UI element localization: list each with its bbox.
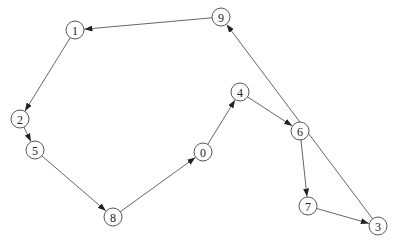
edge-8-to-0 bbox=[120, 158, 195, 212]
node-6: 6 bbox=[291, 122, 309, 140]
node-label: 4 bbox=[237, 86, 243, 100]
edge-4-to-6 bbox=[248, 97, 292, 126]
edge-1-to-2 bbox=[25, 38, 70, 111]
node-label: 0 bbox=[200, 146, 206, 160]
edge-0-to-4 bbox=[208, 100, 235, 144]
node-1: 1 bbox=[66, 21, 84, 39]
node-2: 2 bbox=[11, 110, 29, 128]
node-label: 3 bbox=[375, 220, 381, 234]
edge-2-to-5 bbox=[24, 127, 31, 141]
node-9: 9 bbox=[212, 8, 230, 26]
node-label: 6 bbox=[297, 125, 303, 139]
node-label: 2 bbox=[17, 113, 23, 127]
node-label: 8 bbox=[110, 211, 116, 225]
node-7: 7 bbox=[299, 197, 317, 215]
node-label: 5 bbox=[32, 144, 38, 158]
edges-layer bbox=[24, 18, 373, 224]
node-8: 8 bbox=[104, 208, 122, 226]
node-label: 9 bbox=[218, 11, 224, 25]
node-3: 3 bbox=[369, 217, 387, 235]
node-label: 1 bbox=[72, 24, 78, 38]
edge-6-to-7 bbox=[301, 140, 307, 197]
node-5: 5 bbox=[26, 141, 44, 159]
node-label: 7 bbox=[305, 200, 311, 214]
edge-9-to-1 bbox=[84, 18, 212, 29]
graph-canvas: 0123456789 bbox=[0, 0, 396, 240]
node-0: 0 bbox=[194, 143, 212, 161]
directed-graph: 0123456789 bbox=[0, 0, 396, 240]
edge-5-to-8 bbox=[42, 156, 106, 211]
edge-7-to-3 bbox=[317, 208, 369, 223]
node-4: 4 bbox=[231, 83, 249, 101]
